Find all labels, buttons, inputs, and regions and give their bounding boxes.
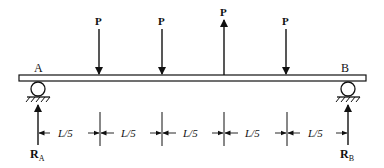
span-label-3: L/5 bbox=[182, 127, 198, 139]
beam bbox=[19, 75, 366, 81]
load-label-1: P bbox=[95, 15, 102, 27]
reaction-label-a: RA bbox=[30, 147, 45, 163]
beam-diagram: A B RA RB P P P P bbox=[0, 0, 384, 168]
span-label-5: L/5 bbox=[307, 127, 323, 139]
support-label-a: A bbox=[34, 61, 43, 75]
load-label-3: P bbox=[220, 6, 227, 18]
roller-support-b bbox=[336, 82, 360, 102]
roller-support-a bbox=[26, 82, 50, 102]
load-label-4: P bbox=[282, 15, 289, 27]
reaction-label-b: RB bbox=[340, 147, 354, 163]
span-label-4: L/5 bbox=[244, 127, 260, 139]
span-label-2: L/5 bbox=[120, 127, 136, 139]
support-label-b: B bbox=[341, 61, 349, 75]
load-label-2: P bbox=[158, 15, 165, 27]
span-label-1: L/5 bbox=[57, 127, 73, 139]
